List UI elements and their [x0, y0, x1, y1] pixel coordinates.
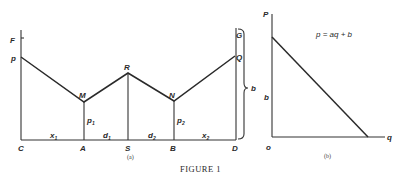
equation: p = aq + b	[315, 30, 353, 39]
figure-1: F p M R N Q G C A S B D x1 d1 d2 x2 p1 p…	[0, 0, 404, 185]
label-x1: x1	[49, 131, 57, 141]
label-a: A	[79, 144, 86, 153]
panel-b: P q o b p = aq + b (b)	[263, 10, 392, 160]
panel-a: F p M R N Q G C A S B D x1 d1 d2 x2 p1 p…	[10, 28, 256, 161]
label-axis-p: P	[263, 10, 269, 19]
label-p: p	[10, 54, 16, 63]
demand-line	[272, 37, 368, 137]
label-intercept-b: b	[264, 93, 269, 102]
label-n: N	[169, 91, 175, 100]
label-brace-b: b	[251, 84, 256, 93]
panel-b-label: (b)	[324, 153, 331, 160]
label-axis-q: q	[387, 133, 392, 142]
label-p2: p2	[176, 116, 185, 126]
label-d: D	[232, 144, 238, 153]
label-g: G	[236, 31, 242, 40]
label-d2: d2	[148, 131, 156, 141]
label-b: B	[170, 144, 176, 153]
label-r: R	[124, 63, 130, 72]
panel-a-label: (a)	[127, 154, 134, 161]
label-d1: d1	[103, 131, 111, 141]
label-f: F	[10, 36, 16, 45]
label-p1: p1	[86, 116, 95, 126]
label-q: Q	[236, 53, 243, 62]
label-c: C	[18, 144, 24, 153]
label-m: M	[79, 91, 86, 100]
figure-caption: FIGURE 1	[180, 164, 221, 174]
label-x2: x2	[201, 131, 209, 141]
label-origin: o	[266, 143, 271, 152]
label-s: S	[125, 144, 131, 153]
brace-b	[238, 29, 248, 139]
